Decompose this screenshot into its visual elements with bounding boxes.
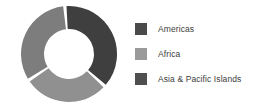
donut-chart — [19, 4, 119, 104]
legend-color-swatch-icon — [135, 23, 147, 35]
slice-americas[interactable] — [66, 6, 117, 85]
legend-item-label: Asia & Pacific Islands — [158, 74, 241, 84]
donut-slices — [21, 6, 117, 102]
legend-item-label: Africa — [158, 49, 180, 59]
slice-asia-pacific-islands[interactable] — [21, 6, 66, 78]
legend-item-label: Americas — [158, 24, 194, 34]
chart-plot-area — [0, 0, 128, 108]
legend-item-asia-pacific-islands[interactable]: Asia & Pacific Islands — [135, 73, 255, 86]
legend-item-americas[interactable]: Americas — [135, 23, 255, 36]
chart-legend: Americas Africa Asia & Pacific Islands — [128, 0, 255, 108]
legend-color-swatch-icon — [135, 73, 147, 85]
donut-chart-figure: Americas Africa Asia & Pacific Islands — [0, 0, 255, 108]
legend-color-swatch-icon — [135, 48, 147, 60]
legend-item-africa[interactable]: Africa — [135, 48, 255, 61]
